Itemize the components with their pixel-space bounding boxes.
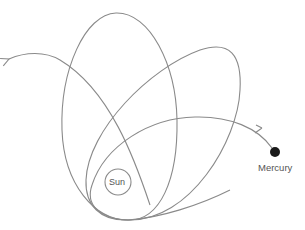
mercury-label: Mercury — [258, 163, 292, 173]
sun-label: Sun — [109, 178, 125, 187]
direction-arrow-icon — [255, 125, 262, 133]
mercury-precession-diagram: Sun Mercury — [0, 0, 305, 230]
mercury-planet — [270, 147, 280, 157]
orbit-flat-lower — [128, 190, 230, 220]
orbit-tilted — [86, 47, 240, 220]
orbit-drawing — [0, 0, 305, 230]
